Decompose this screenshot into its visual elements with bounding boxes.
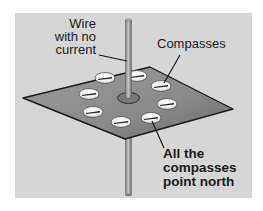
compass-icon [79,89,99,100]
compass-icon [157,99,177,110]
compasses-label: Compasses [157,37,226,50]
compass-icon [95,73,115,84]
wire-leader-line [99,55,127,61]
wire-lower [126,135,132,196]
result-label-line-3: point north [163,175,237,189]
compass-icon [151,81,171,92]
result-label: All the compasses point north [163,147,237,189]
wire-label: Wire with no current [44,17,96,56]
result-label-line-2: compasses [163,161,237,175]
result-label-line-1: All the [163,147,237,161]
compass-icon [111,117,131,128]
compass-icon [83,107,103,118]
compass-icon [141,113,161,124]
wire-upper [126,19,132,98]
wire-label-line-3: current [44,43,96,56]
